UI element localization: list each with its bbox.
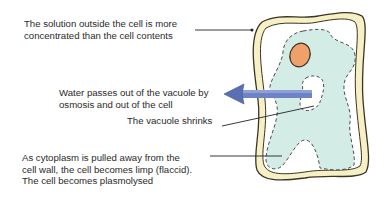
label-water-osmosis: Water passes out of the vacuole by osmos… [59, 87, 209, 110]
label-line: cell wall, the cell becomes limp (flacci… [22, 164, 192, 176]
label-line: The solution outside the cell is more [24, 18, 177, 30]
label-plasmolysed: As cytoplasm is pulled away from the cel… [22, 152, 192, 187]
label-line: osmosis and out of the cell [59, 99, 209, 111]
leader-dot-solution [251, 29, 254, 32]
label-line: concentrated than the cell contents [24, 30, 177, 42]
label-line: Water passes out of the vacuole by [59, 87, 209, 99]
label-line: The vacuole shrinks [127, 115, 212, 127]
label-line: The cell becomes plasmolysed [22, 175, 192, 187]
label-solution-concentration: The solution outside the cell is more co… [24, 18, 177, 41]
label-line: As cytoplasm is pulled away from the [22, 152, 192, 164]
label-vacuole-shrinks: The vacuole shrinks [127, 115, 212, 127]
